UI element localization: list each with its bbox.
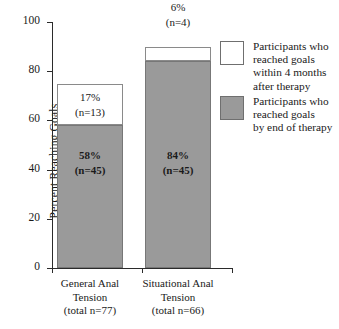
bar2-white-count-label: (n=4) — [145, 15, 211, 30]
y-tick-20: 20 — [47, 219, 52, 220]
bar1-white-count-label: (n=13) — [58, 105, 122, 120]
bar1-white-percent-label: 17% — [58, 90, 122, 105]
legend-line-4: after therapy — [253, 80, 329, 93]
y-tick-80: 80 — [47, 71, 52, 72]
bar1-segment-end-of-therapy: 58% (n=45) — [57, 125, 123, 268]
bar-group-general-anal-tension: 58% (n=45) 17% (n=13) — [57, 22, 123, 268]
bar1-gray-percent-label: 58% — [58, 148, 122, 163]
bar1-segment-within-4-months: 17% (n=13) — [57, 84, 123, 126]
legend-line-1: Participants who — [253, 95, 332, 108]
bar1-gray-count-label: (n=45) — [58, 163, 122, 178]
y-tick-label-60: 60 — [29, 112, 41, 124]
legend-line-1: Participants who — [253, 40, 329, 53]
category-line-2: Tension — [118, 291, 238, 305]
legend-line-2: reached goals — [253, 53, 329, 66]
x-tick-right — [232, 268, 233, 273]
legend-line-2: reached goals — [253, 108, 332, 121]
stacked-bar-chart: Percent Reaching Goals 0 20 40 60 80 100 — [0, 0, 339, 329]
category-total-2: (total n=66) — [118, 304, 238, 318]
legend-entry-within-4-months: Participants who reached goals within 4 … — [220, 40, 329, 93]
x-tick-middle — [142, 268, 143, 273]
y-tick-100: 100 — [47, 22, 52, 23]
legend-entry-end-of-therapy: Participants who reached goals by end of… — [220, 95, 332, 135]
y-tick-60: 60 — [47, 120, 52, 121]
legend-swatch-white-icon — [220, 41, 244, 65]
y-tick-label-80: 80 — [29, 63, 41, 75]
legend-line-3: within 4 months — [253, 66, 329, 79]
bar2-segment-end-of-therapy: 84% (n=45) — [145, 61, 211, 268]
y-tick-label-100: 100 — [23, 14, 40, 26]
y-axis-line — [52, 22, 53, 269]
bar2-segment-within-4-months — [145, 47, 211, 62]
y-tick-label-0: 0 — [34, 260, 40, 272]
category-line-1: Situational Anal — [118, 277, 238, 291]
y-tick-40: 40 — [47, 170, 52, 171]
bar2-white-percent-label: 6% — [145, 0, 211, 15]
bar2-gray-count-label: (n=45) — [146, 163, 210, 178]
bar-group-situational-anal-tension: 84% (n=45) 6% (n=4) — [145, 22, 211, 268]
category-label-situational-anal-tension: Situational Anal Tension (total n=66) — [118, 277, 238, 318]
plot-area: 0 20 40 60 80 100 58% (n=45) — [52, 22, 232, 268]
bar2-gray-percent-label: 84% — [146, 148, 210, 163]
x-tick-left — [52, 268, 53, 273]
legend-swatch-gray-icon — [220, 96, 244, 120]
y-tick-label-40: 40 — [29, 162, 41, 174]
legend-text-within-4-months: Participants who reached goals within 4 … — [253, 40, 329, 93]
legend-text-end-of-therapy: Participants who reached goals by end of… — [253, 95, 332, 135]
y-tick-label-20: 20 — [29, 211, 41, 223]
legend-line-3: by end of therapy — [253, 121, 332, 134]
